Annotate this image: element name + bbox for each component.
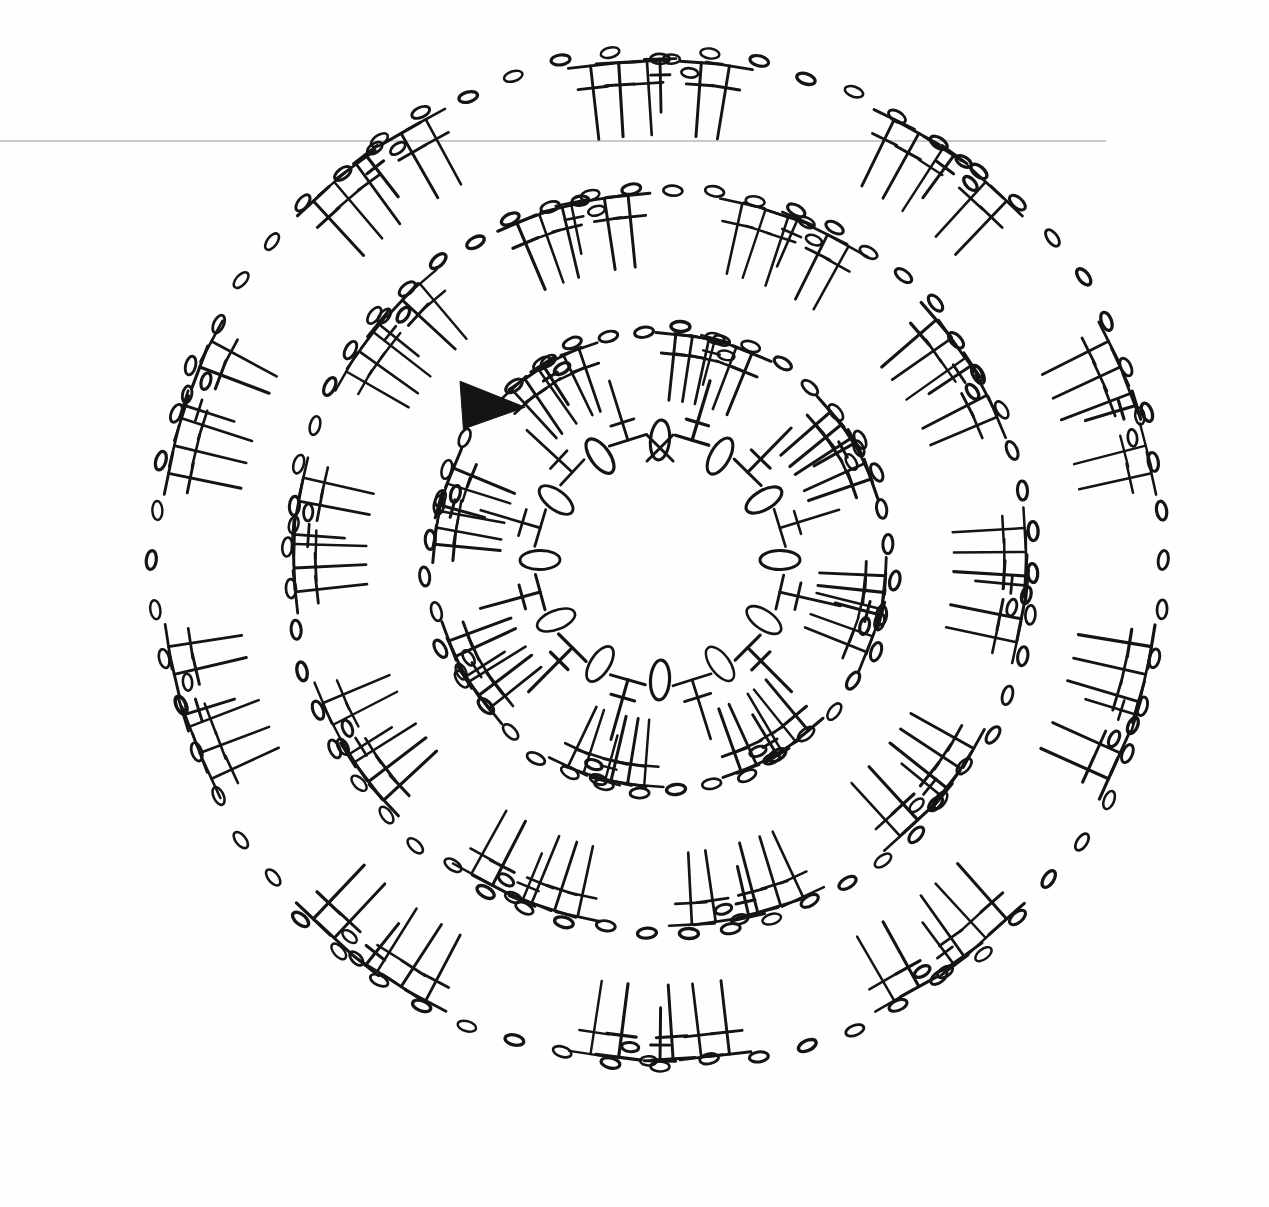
double-crochet-symbol — [954, 531, 1026, 573]
double-crochet-symbol — [611, 675, 646, 740]
stitch-stem — [1042, 341, 1108, 374]
chain-stitch-symbol — [149, 600, 162, 620]
chain-stitch-symbol — [1039, 868, 1058, 889]
stitch-stem — [923, 923, 955, 966]
chain-stitch-symbol — [844, 670, 863, 691]
stitch-stem — [377, 908, 416, 971]
chain-stitch-symbol — [231, 270, 251, 291]
chain-stitch-symbol — [843, 84, 864, 100]
chain-stitch-symbol — [1106, 729, 1122, 748]
stitch-stem — [760, 837, 781, 906]
chain-stitch-symbol — [377, 804, 396, 825]
stitch-cross-bar — [939, 930, 962, 946]
stitch-stem — [619, 984, 628, 1057]
stitch-cross-bar — [308, 524, 310, 547]
stitch-cross-bar — [827, 259, 850, 272]
stitch-stem — [355, 724, 416, 762]
chain-stitch-symbol — [1017, 481, 1028, 500]
stitch-top-bar — [361, 316, 386, 349]
chain-stitch-symbol — [428, 251, 449, 271]
stitch-stem — [717, 66, 729, 139]
stitch-top-bar — [669, 923, 715, 925]
chain-stitch-symbol — [872, 851, 893, 870]
stitch-stem — [773, 832, 803, 897]
chain-stitch-symbol — [630, 788, 649, 798]
chain-stitch-symbol — [701, 642, 740, 685]
chain-stitch-symbol — [621, 1042, 639, 1053]
double-crochet-symbol — [951, 597, 1026, 641]
stitch-stem — [568, 707, 596, 767]
chain-stitch-symbol — [702, 434, 738, 478]
stitch-cross-bar — [358, 174, 381, 190]
start-marker-layer — [460, 381, 525, 429]
double-crochet-symbol — [596, 61, 641, 136]
stitch-stem — [578, 846, 593, 916]
chain-stitch-symbol — [534, 480, 577, 519]
stitch-stem — [628, 195, 635, 267]
stitch-stem — [804, 464, 864, 491]
double-crochet-symbol — [293, 571, 367, 614]
double-crochet-symbol — [735, 635, 791, 691]
stitch-stem — [647, 61, 652, 135]
double-crochet-symbol — [1085, 391, 1140, 420]
chain-stitch-symbol — [525, 750, 546, 767]
double-crochet-symbol — [297, 186, 363, 255]
chain-stitch-symbol — [1119, 743, 1135, 764]
double-crochet-symbol — [299, 458, 374, 498]
stitch-top-bar — [442, 622, 456, 660]
chain-stitch-symbol — [1073, 831, 1092, 852]
stitch-cross-bar — [423, 291, 445, 310]
chain-stitch-symbol — [671, 321, 690, 332]
chain-stitch-symbol — [893, 266, 914, 285]
stitch-cross-bar — [896, 146, 921, 160]
stitch-stem — [818, 585, 884, 592]
chain-stitch-symbol — [1005, 598, 1019, 617]
stitch-cross-bar — [1083, 757, 1094, 782]
stitch-cross-bar — [565, 743, 588, 754]
stitch-stem — [780, 592, 840, 606]
chain-stitch-symbol — [700, 47, 720, 60]
stitch-stem — [539, 214, 563, 282]
stitch-stem — [692, 381, 710, 440]
chain-stitch-symbol — [340, 719, 355, 738]
stitch-stem — [660, 59, 661, 112]
chain-stitch-symbol — [799, 378, 820, 398]
chain-stitch-symbol — [550, 54, 570, 66]
chain-stitch-symbol — [1157, 600, 1168, 619]
chain-stitch-symbol — [442, 856, 463, 875]
chain-stitch-symbol — [637, 927, 657, 938]
stitch-stem — [303, 478, 373, 494]
double-crochet-symbol — [954, 555, 1027, 597]
double-crochet-symbol — [569, 981, 612, 1057]
stitch-stem — [469, 647, 525, 682]
stitch-stem — [346, 372, 408, 408]
stitch-stem — [946, 627, 1016, 642]
stitch-stem — [184, 405, 235, 421]
stitch-stem — [539, 369, 577, 423]
stitch-stem — [323, 675, 389, 703]
stitch-stem — [401, 133, 438, 197]
chain-stitch-symbol — [600, 46, 621, 60]
stitch-cross-bar — [543, 372, 557, 381]
stitch-cross-bar — [225, 756, 237, 783]
stitch-top-bar — [549, 757, 587, 775]
chain-stitch-symbol — [199, 372, 213, 391]
double-crochet-symbol — [203, 748, 279, 798]
double-crochet-symbol — [529, 634, 586, 692]
chain-stitch-symbol — [405, 836, 426, 856]
chain-stitch-symbol — [153, 450, 168, 471]
stitch-cross-bar — [736, 900, 755, 904]
chain-stitch-symbol — [714, 902, 733, 916]
chain-stitch-symbol — [1155, 500, 1168, 520]
double-crochet-symbol — [169, 652, 246, 698]
stitch-stem — [1086, 699, 1137, 715]
stitch-cross-bar — [1011, 575, 1013, 593]
round-3-group — [281, 182, 1038, 939]
stitch-stem — [212, 748, 279, 779]
stitch-stem — [609, 381, 627, 440]
chain-stitch-symbol — [504, 1033, 525, 1047]
double-crochet-symbol — [1079, 452, 1156, 495]
double-crochet-symbol — [890, 743, 960, 805]
stitch-stem — [951, 605, 1022, 619]
chain-stitch-symbol — [598, 329, 619, 343]
